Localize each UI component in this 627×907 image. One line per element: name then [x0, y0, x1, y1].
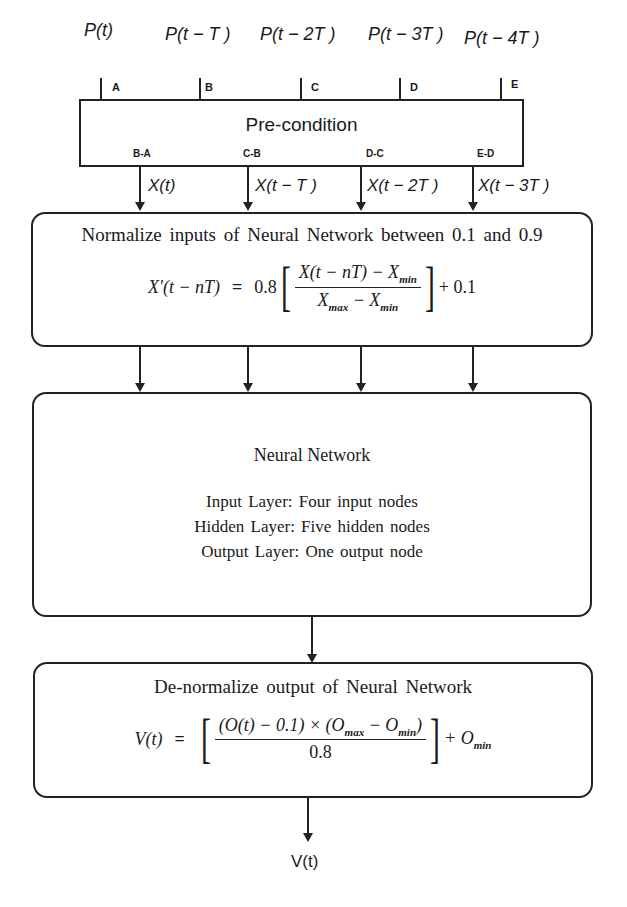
input-tap-line — [399, 78, 401, 100]
input-tap-line — [300, 78, 302, 100]
input-tap-line — [100, 78, 102, 100]
fraction-numerator: X(t − nT) − Xmin — [295, 262, 421, 288]
equation-coefficient: 0.8 — [254, 277, 277, 298]
numerator-sub: max — [345, 725, 365, 737]
arrow-down-icon — [468, 202, 478, 211]
input-signal-label: P(t − 3T ) — [368, 24, 444, 45]
output-label: V(t) — [291, 852, 318, 872]
arrow-down-icon — [303, 833, 313, 842]
layer-list: Input Layer: Four input nodes Hidden Lay… — [34, 489, 590, 564]
precondition-title: Pre-condition — [81, 114, 522, 136]
arrow-down-icon — [356, 202, 366, 211]
difference-label: X(t − 3T ) — [478, 176, 549, 196]
precondition-output-label: D-C — [366, 148, 384, 159]
arrow-line — [360, 347, 362, 385]
input-signal-label: P(t − 2T ) — [260, 24, 336, 45]
layer-item-input: Input Layer: Four input nodes — [34, 489, 590, 514]
arrow-line — [360, 167, 362, 204]
precondition-box: Pre-condition B-A C-B D-C E-D — [79, 99, 524, 167]
precondition-output-label: C-B — [243, 148, 261, 159]
denominator-text: X — [318, 290, 329, 310]
precondition-output-label: E-D — [477, 148, 494, 159]
normalize-box: Normalize inputs of Neural Network betwe… — [31, 212, 593, 347]
equation-equals: = — [232, 277, 242, 298]
denormalize-box: De-normalize output of Neural Network V(… — [33, 662, 593, 798]
arrow-line — [139, 347, 141, 385]
numerator-sub: min — [398, 725, 416, 737]
equation-fraction: (O(t) − 0.1) × (Omax − Omin) 0.8 — [215, 715, 426, 764]
tap-label: D — [410, 81, 418, 93]
right-bracket: ] — [430, 712, 440, 766]
tail-text: + O — [444, 728, 474, 748]
precondition-output-label: B-A — [133, 148, 151, 159]
input-signal-label: P(t − 4T ) — [464, 28, 540, 49]
left-bracket: [ — [201, 712, 211, 766]
numerator-sub: min — [399, 273, 417, 285]
fraction-denominator: 0.8 — [305, 740, 336, 763]
tap-label: A — [112, 81, 120, 93]
equation-fraction: X(t − nT) − Xmin Xmax − Xmin — [295, 262, 421, 312]
arrow-line — [472, 167, 474, 204]
arrow-line — [307, 798, 309, 834]
arrow-down-icon — [135, 383, 145, 392]
arrow-line — [247, 167, 249, 204]
equation-lhs: X′(t − nT) — [148, 277, 220, 298]
equation-lhs: V(t) — [135, 729, 163, 750]
tail-sub: min — [474, 738, 492, 750]
equation-equals: = — [175, 729, 185, 750]
neural-network-title: Neural Network — [34, 445, 590, 466]
input-signal-label: P(t − T ) — [165, 24, 231, 45]
arrow-down-icon — [356, 383, 366, 392]
layer-item-output: Output Layer: One output node — [34, 539, 590, 564]
difference-label: X(t − 2T ) — [367, 176, 438, 196]
arrow-line — [247, 347, 249, 385]
layer-item-hidden: Hidden Layer: Five hidden nodes — [34, 514, 590, 539]
input-tap-line — [500, 78, 502, 100]
input-signal-label: P(t) — [84, 20, 113, 41]
left-bracket: [ — [281, 260, 291, 314]
normalize-equation: X′(t − nT) = 0.8 [ X(t − nT) − Xmin Xmax… — [33, 260, 591, 314]
tap-label: C — [311, 81, 319, 93]
denormalize-title: De-normalize output of Neural Network — [35, 676, 591, 698]
input-tap-line — [199, 78, 201, 100]
equation-tail: + Omin — [444, 728, 491, 751]
equation-tail: + 0.1 — [439, 277, 476, 298]
neural-network-box: Neural Network Input Layer: Four input n… — [32, 392, 592, 617]
arrow-line — [472, 347, 474, 385]
arrow-line — [139, 167, 141, 204]
difference-label: X(t − T ) — [255, 176, 317, 196]
denominator-sub: max — [329, 300, 349, 312]
fraction-denominator: Xmax − Xmin — [314, 288, 402, 313]
arrow-line — [311, 617, 313, 656]
arrow-down-icon — [135, 202, 145, 211]
difference-label: X(t) — [148, 176, 175, 196]
denominator-text: − X — [348, 290, 380, 310]
denominator-sub: min — [380, 300, 398, 312]
normalize-title: Normalize inputs of Neural Network betwe… — [33, 224, 591, 246]
arrow-down-icon — [468, 383, 478, 392]
numerator-text: X(t − nT) − X — [299, 262, 399, 282]
right-bracket: ] — [425, 260, 435, 314]
arrow-down-icon — [243, 383, 253, 392]
numerator-text: ) — [416, 715, 422, 735]
numerator-text: − O — [364, 715, 398, 735]
tap-label: B — [205, 81, 213, 93]
tap-label: E — [511, 78, 518, 90]
arrow-down-icon — [243, 202, 253, 211]
fraction-numerator: (O(t) − 0.1) × (Omax − Omin) — [215, 715, 426, 741]
numerator-text: (O(t) − 0.1) × (O — [219, 715, 345, 735]
denormalize-equation: V(t) = [ (O(t) − 0.1) × (Omax − Omin) 0.… — [35, 712, 591, 766]
